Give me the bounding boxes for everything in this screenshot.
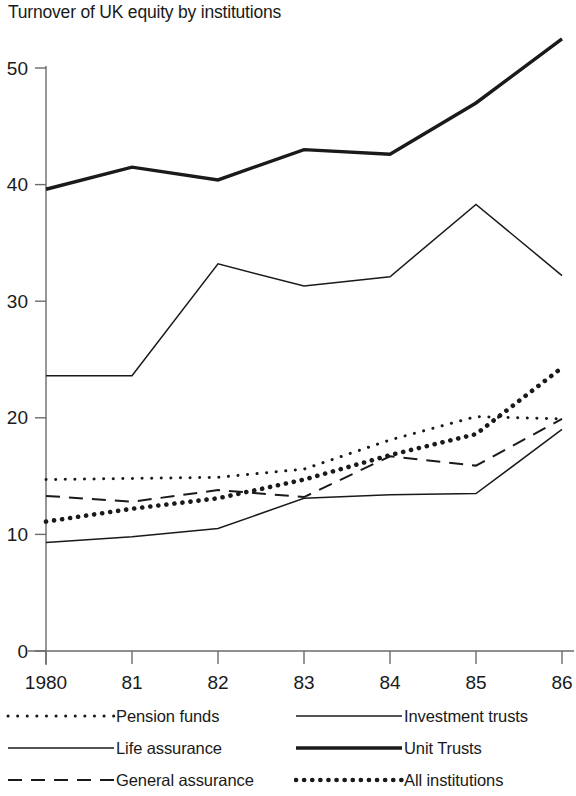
legend-label: Pension funds [116, 707, 219, 726]
y-axis-tick-label: 0 [17, 641, 28, 662]
x-axis-tick-label: 1980 [25, 672, 67, 693]
legend-item-investment-trusts: Investment trusts [294, 700, 576, 732]
y-axis-tick-label: 30 [7, 291, 28, 312]
y-axis-tick-label: 10 [7, 524, 28, 545]
legend-label: Investment trusts [404, 707, 528, 726]
legend-swatch-bold-dotted [294, 771, 404, 789]
series-line [46, 204, 562, 375]
legend-column-right: Investment trusts Unit Trusts All instit… [294, 700, 576, 796]
legend-label: Unit Trusts [404, 739, 482, 758]
legend-label: All institutions [404, 771, 503, 790]
legend-swatch-thick-solid [294, 739, 404, 757]
legend-label: General assurance [116, 771, 254, 790]
series-line [46, 39, 562, 189]
series-line [46, 419, 562, 502]
legend-item-pension-funds: Pension funds [6, 700, 294, 732]
x-axis-tick-label: 85 [465, 672, 486, 693]
line-chart-plot: 010203040501980818283848586 [0, 0, 576, 700]
y-axis-tick-label: 50 [7, 58, 28, 79]
y-axis-tick-label: 20 [7, 407, 28, 428]
chart-figure: Turnover of UK equity by institutions 01… [0, 0, 576, 796]
series-line [46, 417, 562, 480]
chart-series-layer [46, 39, 562, 543]
legend-column-left: Pension funds Life assurance General ass… [6, 700, 294, 796]
series-line [46, 429, 562, 542]
legend-swatch-thin-solid [6, 739, 116, 757]
legend-swatch-dashed [6, 771, 116, 789]
legend-item-unit-trusts: Unit Trusts [294, 732, 576, 764]
chart-axes [28, 66, 574, 665]
legend-item-general-assurance: General assurance [6, 764, 294, 796]
legend-item-all-institutions: All institutions [294, 764, 576, 796]
chart-legend: Pension funds Life assurance General ass… [0, 700, 576, 796]
x-axis-tick-label: 81 [121, 672, 142, 693]
legend-item-life-assurance: Life assurance [6, 732, 294, 764]
legend-swatch-thin-solid [294, 707, 404, 725]
x-axis-tick-label: 83 [293, 672, 314, 693]
x-axis-tick-label: 86 [551, 672, 572, 693]
legend-label: Life assurance [116, 739, 222, 758]
legend-swatch-fine-dotted [6, 707, 116, 725]
x-axis-tick-label: 84 [379, 672, 401, 693]
y-axis-tick-label: 40 [7, 174, 28, 195]
x-axis-tick-label: 82 [207, 672, 228, 693]
